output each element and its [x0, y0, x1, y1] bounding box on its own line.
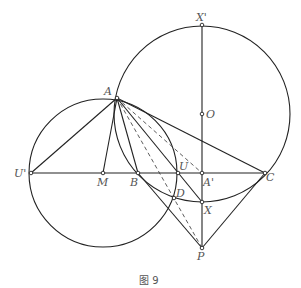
point-Ap: [200, 171, 204, 175]
point-M: [101, 171, 105, 175]
segment-A-C: [117, 98, 265, 173]
segment-B-P: [138, 173, 202, 248]
point-A: [115, 96, 119, 100]
point-C: [263, 171, 267, 175]
point-O: [200, 112, 204, 116]
segment-A-M: [103, 98, 117, 173]
point-P: [200, 246, 204, 250]
segment-A-X: [117, 98, 202, 202]
dashed-segment-A-Ap: [117, 98, 202, 173]
segment-A-Up: [31, 98, 117, 173]
point-Xp: [200, 23, 204, 27]
point-U: [176, 171, 180, 175]
point-X: [200, 200, 204, 204]
diagram-canvas: [0, 0, 301, 288]
geometry-figure: A X' O U' M B U A' C D X P 图 9: [0, 0, 301, 288]
point-D: [172, 196, 176, 200]
segment-C-P: [202, 173, 265, 248]
point-Up: [29, 171, 33, 175]
point-B: [136, 171, 140, 175]
